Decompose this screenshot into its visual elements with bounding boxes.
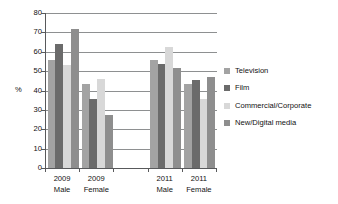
bar-group: [114, 13, 148, 168]
legend-label: New/Digital media: [235, 119, 296, 127]
x-axis-category-line: Female: [169, 185, 229, 196]
x-axis-tick-mark: [45, 168, 46, 172]
bar-chart: % 01020304050607080 2009Male2009Female20…: [0, 0, 338, 204]
gridline: [46, 168, 217, 169]
bar-group: [80, 13, 114, 168]
y-axis-tick-label: 40: [20, 87, 42, 95]
legend-swatch-icon: [224, 120, 230, 126]
bar-group: [149, 13, 183, 168]
y-axis-tick-label: 10: [20, 145, 42, 153]
y-axis-tick-label: 20: [20, 125, 42, 133]
legend-swatch-icon: [224, 85, 230, 91]
y-axis-tick-label: 0: [20, 164, 42, 172]
x-axis-tick-mark: [182, 168, 183, 172]
bar-new-digital-media: [105, 115, 113, 168]
x-axis-category-line: 2009: [66, 174, 126, 185]
legend-item[interactable]: Film: [224, 80, 311, 98]
plot-area: [45, 13, 216, 168]
legend-label: Film: [235, 84, 249, 92]
y-axis-tick-label: 60: [20, 48, 42, 56]
x-axis-category-label: 2011Female: [169, 174, 229, 195]
legend-label: Commercial/Corporate: [235, 102, 311, 110]
y-axis-tick-label: 50: [20, 67, 42, 75]
y-axis-tick-label: 30: [20, 106, 42, 114]
legend-swatch-icon: [224, 68, 230, 74]
x-axis-category-line: 2011: [169, 174, 229, 185]
legend-item[interactable]: Television: [224, 62, 311, 80]
bar-new-digital-media: [207, 77, 215, 168]
x-axis-tick-mark: [79, 168, 80, 172]
bar-new-digital-media: [71, 29, 79, 168]
legend-item[interactable]: New/Digital media: [224, 115, 311, 133]
bar-group: [183, 13, 217, 168]
legend-item[interactable]: Commercial/Corporate: [224, 97, 311, 115]
y-axis-tick-label: 70: [20, 29, 42, 37]
x-axis-tick-mark: [148, 168, 149, 172]
x-axis-tick-mark: [216, 168, 217, 172]
x-axis-tick-mark: [113, 168, 114, 172]
x-axis-category-line: Female: [66, 185, 126, 196]
bar-new-digital-media: [173, 68, 181, 168]
chart-legend: TelevisionFilmCommercial/CorporateNew/Di…: [224, 62, 311, 132]
y-axis-tick-label: 80: [20, 9, 42, 17]
bar-group: [46, 13, 80, 168]
x-axis-category-label: 2009Female: [66, 174, 126, 195]
legend-label: Television: [235, 67, 268, 75]
legend-swatch-icon: [224, 103, 230, 109]
